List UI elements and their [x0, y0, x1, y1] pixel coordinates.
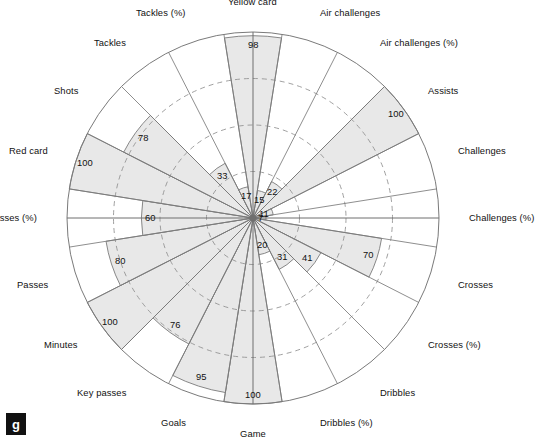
value-label-yellow-card: 98: [248, 40, 258, 50]
value-label-game: 100: [245, 390, 261, 400]
value-label-assists: 100: [388, 109, 404, 119]
center-hub: [250, 215, 256, 221]
value-label-minutes: 100: [102, 317, 118, 327]
category-label-air-challenges: Air challenges (%): [380, 38, 458, 48]
category-label-shots: Shots: [54, 86, 78, 96]
value-label-air-challenges: 22: [267, 187, 277, 197]
category-label-minutes: Minutes: [44, 340, 78, 350]
category-label-red-card: Red card: [9, 146, 48, 156]
value-label-goals: 95: [196, 372, 206, 382]
value-label-dribbles: 20: [257, 240, 267, 250]
value-label-red-card: 100: [77, 158, 93, 168]
category-label-dribbles: Dribbles (%): [320, 418, 373, 428]
category-label-air-challenges: Air challenges: [320, 8, 380, 18]
value-label-challenges: 7: [258, 213, 263, 223]
value-label-shots: 78: [138, 133, 148, 143]
value-label-passes: 80: [115, 256, 125, 266]
category-label-challenges: Challenges (%): [469, 213, 535, 223]
category-label-game: Game: [240, 429, 266, 439]
category-label-challenges: Challenges: [458, 146, 506, 156]
value-label-crosses: 41: [302, 253, 312, 263]
category-label-assists: Assists: [428, 86, 458, 96]
category-label-passes: Passes: [17, 280, 48, 290]
category-label-crosses: Crosses: [458, 280, 493, 290]
figure-panel-tag: g: [6, 413, 26, 435]
category-label-crosses: Crosses (%): [428, 340, 481, 350]
category-label-passes: Passes (%): [0, 213, 37, 223]
value-label-tackles: 33: [217, 171, 227, 181]
category-label-tackles: Tackles (%): [136, 8, 186, 18]
value-label-key-passes: 76: [170, 320, 180, 330]
category-label-key-passes: Key passes: [77, 388, 126, 398]
value-label-air-challenges: 15: [254, 195, 264, 205]
value-label-passes: 60: [145, 213, 155, 223]
value-label-dribbles: 31: [277, 252, 287, 262]
category-label-tackles: Tackles: [94, 38, 126, 48]
sector-assists: [253, 86, 419, 218]
category-label-dribbles: Dribbles: [380, 388, 415, 398]
category-label-yellow-card: Yellow card: [228, 0, 277, 7]
category-label-goals: Goals: [161, 418, 186, 428]
value-label-tackles: 17: [241, 191, 251, 201]
value-label-crosses: 70: [363, 250, 373, 260]
